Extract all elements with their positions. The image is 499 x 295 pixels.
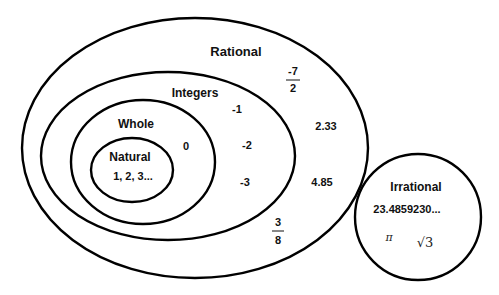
irrational-label: Irrational bbox=[390, 180, 441, 194]
irrational-member-sqrt3: √3 bbox=[417, 235, 434, 250]
natural-label: Natural bbox=[109, 150, 150, 164]
irrational-set-circle bbox=[355, 154, 481, 280]
integers-label: Integers bbox=[172, 86, 219, 100]
integers-member-neg1: -1 bbox=[232, 103, 242, 115]
irrational-member-decimal: 23.4859230... bbox=[373, 203, 440, 215]
rational-frac2-denominator: 8 bbox=[275, 234, 281, 246]
number-sets-venn-diagram: Rational -7 2 2.33 4.85 3 8 Integers -1 … bbox=[0, 0, 499, 295]
whole-label: Whole bbox=[118, 117, 154, 131]
rational-frac2-numerator: 3 bbox=[275, 216, 281, 228]
natural-members: 1, 2, 3... bbox=[113, 170, 153, 182]
integers-member-neg2: -2 bbox=[242, 139, 252, 151]
whole-member-0: 0 bbox=[183, 140, 189, 152]
rational-frac1-numerator: -7 bbox=[288, 65, 298, 77]
integers-member-neg3: -3 bbox=[240, 176, 250, 188]
rational-frac1-denominator: 2 bbox=[290, 82, 296, 94]
irrational-member-pi: π bbox=[384, 231, 393, 244]
rational-member-2-33: 2.33 bbox=[315, 120, 336, 132]
rational-label: Rational bbox=[210, 44, 261, 59]
rational-member-4-85: 4.85 bbox=[311, 176, 332, 188]
